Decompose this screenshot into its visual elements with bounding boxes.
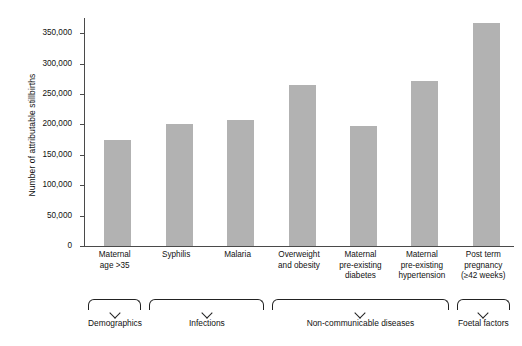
group-label: Foetal factors xyxy=(457,318,510,328)
category-label-line: pregnancy xyxy=(453,261,514,272)
category-label-line: Maternal xyxy=(391,250,452,261)
category-label: Syphilis xyxy=(145,250,206,261)
group-bracket-shape xyxy=(88,299,141,310)
bar xyxy=(166,124,193,246)
category-label-line: and obesity xyxy=(268,261,329,272)
y-axis-tick xyxy=(80,124,84,125)
bar xyxy=(350,126,377,246)
category-label: Overweightand obesity xyxy=(268,250,329,271)
group-label: Infections xyxy=(149,318,264,328)
category-label-line: diabetes xyxy=(330,271,391,282)
category-label: Maternalage >35 xyxy=(84,250,145,271)
y-axis-tick xyxy=(80,155,84,156)
y-axis-tick-label: 150,000 xyxy=(0,151,72,159)
group-label: Demographics xyxy=(88,318,141,328)
category-label: Malaria xyxy=(207,250,268,261)
bar xyxy=(473,23,500,246)
y-axis-tick xyxy=(80,185,84,186)
group-bracket-shape xyxy=(457,299,510,310)
y-axis-tick-label-wrap: 50,000 xyxy=(0,212,76,220)
y-axis-tick-label-wrap: 350,000 xyxy=(0,29,76,37)
x-axis-category-labels: Maternalage >35SyphilisMalariaOverweight… xyxy=(84,250,514,294)
bar-chart: Number of attributable stillbirths 350,0… xyxy=(0,0,522,346)
y-axis-tick-label-wrap: 0 xyxy=(0,242,76,250)
x-axis-line xyxy=(84,246,514,247)
category-label-line: Maternal xyxy=(330,250,391,261)
group-brackets: DemographicsInfectionsNon-communicable d… xyxy=(84,299,514,344)
y-axis-tick-label-wrap: 100,000 xyxy=(0,181,76,189)
category-label-line: pre-existing xyxy=(391,261,452,272)
category-label-line: Overweight xyxy=(268,250,329,261)
y-axis-tick-label: 350,000 xyxy=(0,29,72,37)
y-axis-tick-label-wrap: 150,000 xyxy=(0,151,76,159)
y-axis-tick-label: 100,000 xyxy=(0,181,72,189)
category-label-line: (≥42 weeks) xyxy=(453,271,514,282)
group-bracket-shape xyxy=(272,299,448,310)
y-axis-tick-label-wrap: 250,000 xyxy=(0,90,76,98)
bar xyxy=(289,85,316,246)
y-axis-tick xyxy=(80,94,84,95)
group: Foetal factors xyxy=(457,299,510,328)
bar xyxy=(104,140,131,246)
category-label: Post termpregnancy(≥42 weeks) xyxy=(453,250,514,282)
bar xyxy=(411,81,438,246)
y-axis-tick xyxy=(80,33,84,34)
y-axis-tick-label: 200,000 xyxy=(0,120,72,128)
group-label: Non-communicable diseases xyxy=(272,318,448,328)
y-axis-tick-label: 300,000 xyxy=(0,60,72,68)
category-label-line: Malaria xyxy=(207,250,268,261)
y-axis-tick-label-wrap: 300,000 xyxy=(0,60,76,68)
group: Infections xyxy=(149,299,264,328)
y-axis-tick xyxy=(80,64,84,65)
category-label-line: pre-existing xyxy=(330,261,391,272)
group: Non-communicable diseases xyxy=(272,299,448,328)
category-label: Maternalpre-existinghypertension xyxy=(391,250,452,282)
y-axis-tick-label-wrap: 200,000 xyxy=(0,120,76,128)
category-label-line: age >35 xyxy=(84,261,145,272)
y-axis-tick-label: 0 xyxy=(0,242,72,250)
category-label-line: Syphilis xyxy=(145,250,206,261)
group: Demographics xyxy=(88,299,141,328)
y-axis-tick-label: 50,000 xyxy=(0,212,72,220)
bar xyxy=(227,120,254,246)
plot-area: 350,000300,000250,000200,000150,000100,0… xyxy=(84,18,514,246)
y-axis-tick xyxy=(80,216,84,217)
y-axis-tick-label: 250,000 xyxy=(0,90,72,98)
bars-container xyxy=(84,18,514,246)
y-axis-tick xyxy=(80,246,84,247)
group-bracket-shape xyxy=(149,299,264,310)
category-label-line: Maternal xyxy=(84,250,145,261)
category-label: Maternalpre-existingdiabetes xyxy=(330,250,391,282)
category-label-line: Post term xyxy=(453,250,514,261)
category-label-line: hypertension xyxy=(391,271,452,282)
